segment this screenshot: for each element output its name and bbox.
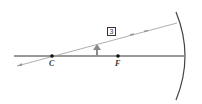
ray-diagram — [0, 0, 202, 104]
ray-arrow-mark — [130, 34, 134, 35]
ray-arrowhead-left — [17, 63, 22, 66]
label-c: C — [49, 59, 54, 68]
point-c — [50, 54, 54, 58]
ray-number-box: 3 — [107, 27, 116, 36]
ray-arrow-mark — [144, 31, 148, 32]
label-f: F — [115, 59, 120, 68]
point-f — [116, 54, 120, 58]
